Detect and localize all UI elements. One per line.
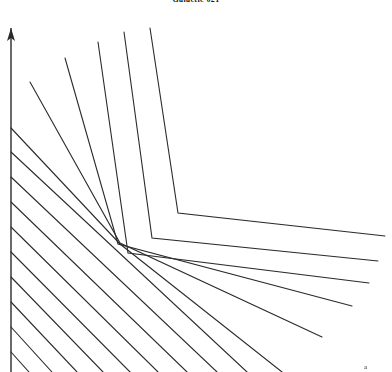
curve-elbow-3 [98, 42, 369, 283]
curve-ray-4 [11, 177, 217, 372]
curve-elbow-1 [150, 28, 385, 236]
curve-ray-5 [11, 202, 187, 372]
curve-ray-7 [11, 252, 130, 372]
curve-ray-2 [11, 128, 282, 372]
corner-label: a [364, 364, 367, 370]
figure-root: Galactic 021 a [0, 0, 392, 372]
curve-elbow-2 [124, 32, 378, 261]
curve-ray-10 [11, 327, 52, 372]
curve-ray-11 [11, 352, 29, 372]
curve-ray-1 [30, 82, 322, 337]
axis-group [7, 28, 15, 372]
curves-group [11, 28, 385, 372]
figure-canvas [0, 0, 392, 372]
curve-ray-8 [11, 277, 103, 372]
curve-ray-9 [11, 302, 77, 372]
